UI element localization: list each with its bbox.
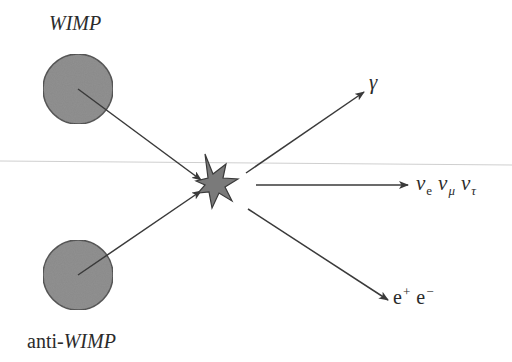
anti-wimp-label: anti-WIMP [27, 331, 116, 351]
tau-neutrino-symbol: ν [461, 171, 470, 195]
electron-superscript: − [426, 284, 433, 299]
page-rule [0, 161, 512, 165]
tau-neutrino-subscript: τ [471, 183, 476, 198]
anti-wimp-label-main: WIMP [64, 330, 116, 352]
neutrino-label: νeνμντ [416, 173, 476, 194]
wimp-incoming-arrow [78, 89, 201, 180]
electron-symbol: e [416, 286, 425, 308]
muon-neutrino-symbol: ν [438, 171, 447, 195]
electron-outgoing-arrow [248, 209, 388, 300]
photon-outgoing-arrow [246, 92, 364, 173]
wimp-label: WIMP [49, 13, 101, 33]
electron-neutrino-symbol: ν [416, 171, 425, 195]
anti-wimp-label-prefix: anti- [27, 330, 64, 352]
electron-neutrino-subscript: e [426, 183, 432, 198]
photon-label: γ [369, 72, 377, 93]
positron-symbol: e [393, 286, 402, 308]
muon-neutrino-subscript: μ [448, 183, 455, 198]
positron-superscript: + [403, 284, 410, 299]
anti-wimp-incoming-arrow [78, 191, 201, 275]
electron-positron-label: e+e− [393, 287, 433, 307]
